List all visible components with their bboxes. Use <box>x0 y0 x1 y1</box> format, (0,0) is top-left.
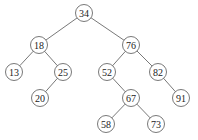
tree-node-25: 25 <box>55 64 72 81</box>
tree-node-52: 52 <box>99 64 116 81</box>
node-label: 18 <box>34 40 44 51</box>
tree-edge-76-52 <box>113 51 126 65</box>
tree-node-20: 20 <box>32 90 49 107</box>
tree-node-82: 82 <box>150 64 167 81</box>
tree-edge-34-76 <box>91 18 124 40</box>
tree-node-34: 34 <box>76 5 93 22</box>
tree-node-58: 58 <box>98 116 115 133</box>
node-label: 67 <box>126 93 136 104</box>
tree-node-91: 91 <box>173 90 190 107</box>
node-label: 13 <box>9 67 19 78</box>
tree-nodes: 341876132552822067915873 <box>6 5 190 133</box>
node-label: 82 <box>153 67 163 78</box>
tree-edge-34-18 <box>46 18 77 40</box>
binary-tree-diagram: 341876132552822067915873 <box>0 0 198 140</box>
node-label: 20 <box>35 93 45 104</box>
node-label: 34 <box>79 8 89 19</box>
tree-edge-82-91 <box>164 78 176 91</box>
tree-node-67: 67 <box>123 90 140 107</box>
node-label: 25 <box>58 67 68 78</box>
tree-node-76: 76 <box>123 37 140 54</box>
tree-edge-18-25 <box>45 51 58 65</box>
node-label: 52 <box>102 67 112 78</box>
tree-edge-18-13 <box>20 51 33 66</box>
tree-node-13: 13 <box>6 64 23 81</box>
tree-node-73: 73 <box>148 116 165 133</box>
node-label: 91 <box>176 93 186 104</box>
node-label: 73 <box>151 119 161 130</box>
tree-edge-76-82 <box>137 51 152 66</box>
tree-edge-25-20 <box>46 78 58 91</box>
tree-node-18: 18 <box>31 37 48 54</box>
node-label: 76 <box>126 40 136 51</box>
tree-edge-67-58 <box>112 104 125 118</box>
tree-edge-52-67 <box>113 78 125 92</box>
tree-edge-67-73 <box>137 104 150 118</box>
node-label: 58 <box>101 119 111 130</box>
